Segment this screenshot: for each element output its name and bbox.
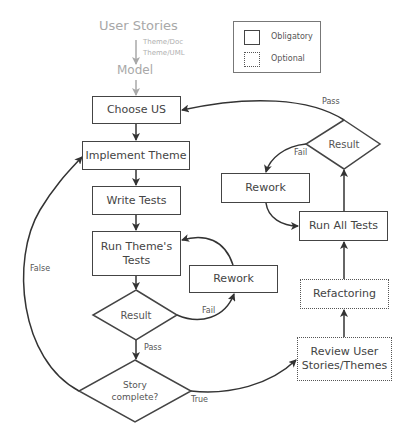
edge-label-pass-lower: Pass xyxy=(144,343,162,352)
result-lower-label: Result xyxy=(106,309,166,322)
review-line2: Stories/Themes xyxy=(302,359,387,373)
obligatory-swatch-icon xyxy=(244,30,260,45)
theme-uml-label: Theme/UML xyxy=(143,49,185,57)
node-run-all-tests[interactable]: Run All Tests xyxy=(299,211,388,241)
flowchart-canvas: User Stories Theme/Doc Theme/UML Model O… xyxy=(0,0,413,441)
node-choose-us[interactable]: Choose US xyxy=(92,96,181,124)
node-run-theme-tests[interactable]: Run Theme's Tests xyxy=(92,231,181,276)
legend-obligatory: Obligatory xyxy=(271,32,313,41)
edge-label-false: False xyxy=(30,264,50,273)
legend: Obligatory Optional xyxy=(233,21,321,73)
story-complete-line1: Story xyxy=(100,379,170,391)
node-refactoring[interactable]: Refactoring xyxy=(300,279,389,309)
run-theme-tests-line2: Tests xyxy=(123,254,150,268)
node-rework-lower[interactable]: Rework xyxy=(189,265,278,293)
user-stories-label: User Stories xyxy=(99,18,178,33)
optional-swatch-icon xyxy=(244,52,260,67)
theme-doc-label: Theme/Doc xyxy=(143,38,183,46)
edge-label-true: True xyxy=(191,395,208,404)
edge-label-pass-top: Pass xyxy=(322,97,340,106)
node-implement-theme[interactable]: Implement Theme xyxy=(82,141,190,170)
legend-optional: Optional xyxy=(271,54,305,63)
story-complete-label: Story complete? xyxy=(100,379,170,403)
result-upper-label: Result xyxy=(314,138,374,151)
story-complete-line2: complete? xyxy=(100,391,170,403)
edge-label-fail-lower: Fail xyxy=(202,306,215,315)
node-rework-upper[interactable]: Rework xyxy=(221,173,310,203)
node-review-user-stories[interactable]: Review User Stories/Themes xyxy=(297,337,392,381)
node-write-tests[interactable]: Write Tests xyxy=(92,186,181,215)
model-label: Model xyxy=(117,63,153,77)
edge-label-fail-upper: Fail xyxy=(294,148,307,157)
run-theme-tests-line1: Run Theme's xyxy=(101,240,172,254)
review-line1: Review User xyxy=(311,345,379,359)
